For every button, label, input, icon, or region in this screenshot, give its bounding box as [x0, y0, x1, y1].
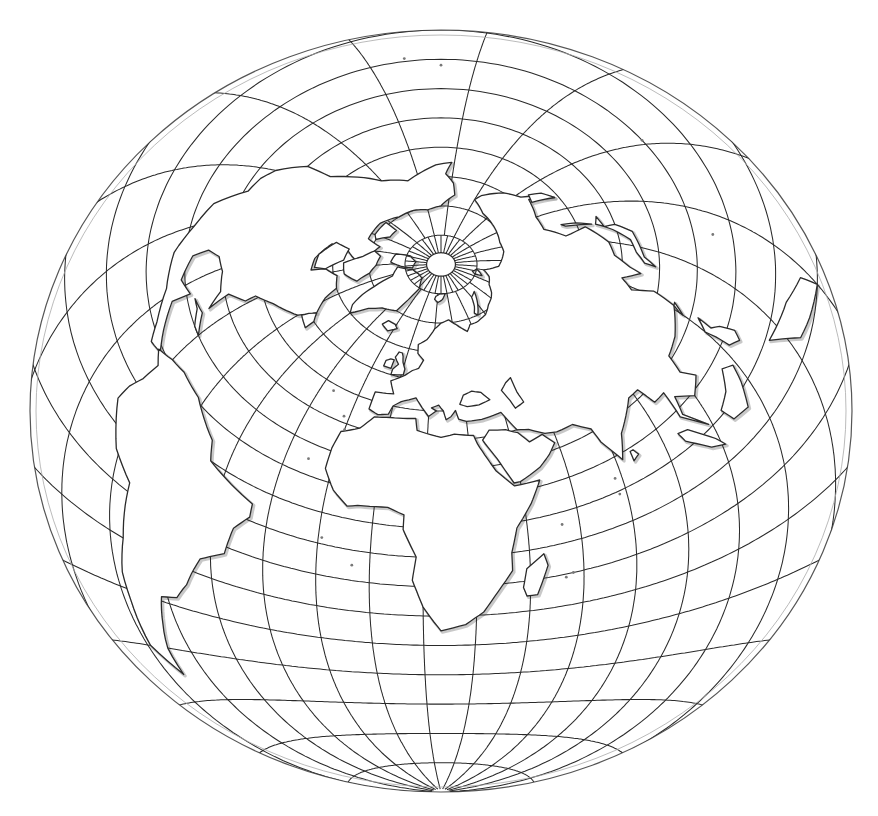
- island-dot: [561, 523, 564, 526]
- island-dot: [641, 139, 644, 142]
- island-dot: [618, 493, 621, 496]
- island-dot: [350, 564, 353, 567]
- island-dot: [343, 428, 346, 431]
- island-dot: [711, 233, 714, 236]
- island-dot: [572, 571, 575, 574]
- island-dot: [332, 389, 335, 392]
- island-dot: [565, 576, 568, 579]
- north-pole-cap: [427, 253, 456, 277]
- island-dot: [440, 64, 443, 67]
- island-dot: [320, 536, 323, 539]
- island-dot: [307, 457, 310, 460]
- map-canvas: [0, 0, 878, 816]
- island-dot: [614, 477, 617, 480]
- island-dot: [403, 57, 406, 60]
- island-dot: [343, 415, 346, 418]
- globe-map: [0, 0, 878, 816]
